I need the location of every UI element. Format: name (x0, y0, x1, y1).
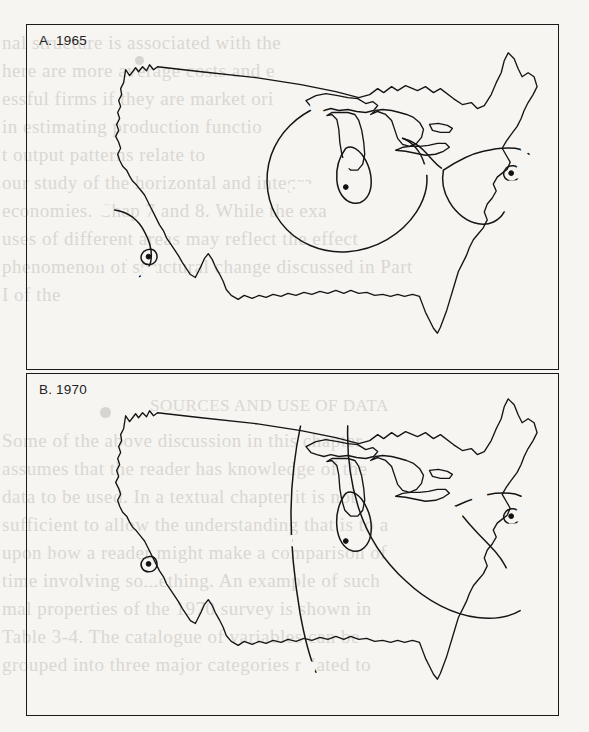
city-dot-chicago (343, 539, 348, 544)
contour-label-25-la: 25 (145, 574, 158, 586)
great-lakes-huron-erie (371, 456, 424, 493)
great-lakes-ontario (429, 123, 452, 132)
city-dot-los-angeles (146, 254, 151, 259)
map-panel-1970: B. 1970 (26, 373, 559, 716)
city-dot-new-york (509, 171, 514, 176)
city-label-los-angeles: Los Angeles (57, 250, 125, 264)
contour-25-chicago (337, 492, 372, 551)
city-label-new-york: New York (517, 509, 558, 523)
great-lakes-huron-erie (371, 110, 424, 147)
city-dot-los-angeles (146, 562, 151, 567)
contour-label-25-ny: 25 (503, 523, 516, 535)
contour-50-new-york-lower (455, 506, 508, 573)
city-dot-chicago (343, 185, 348, 190)
contour-25-chicago (337, 147, 372, 203)
contour-label-25-la: 25 (143, 266, 156, 278)
contour-50-new-york (455, 493, 521, 506)
great-lakes-ontario (429, 469, 452, 478)
map-panel-1965: A. 1965 (26, 24, 559, 370)
contour-50-west-vertical-2 (348, 424, 521, 618)
contour-label-50-west-2: 50 (340, 414, 353, 426)
map-svg-1970: Los Angeles Chicago New York 25 50 50 25… (27, 374, 558, 715)
city-label-los-angeles: Los Angeles (55, 557, 123, 571)
contour-50-ny-lower (443, 170, 505, 224)
contour-label-50-ny-north: 50 (473, 491, 486, 503)
contour-label-50-west-1: 50 (292, 414, 305, 426)
panel-a-label: A. 1965 (39, 33, 87, 48)
contour-label-50-gulf: 50 (302, 661, 315, 673)
contour-label-25-chicago: 25 (342, 157, 355, 169)
contour-label-25-ny: 25 (503, 180, 516, 192)
city-label-chicago: Chicago (289, 181, 335, 195)
city-dot-new-york (509, 514, 514, 519)
contour-label-50-ny-north: 50 (522, 142, 535, 154)
contour-50-chicago (267, 107, 427, 252)
contour-label-50-west: 50 (98, 204, 111, 216)
figure-page: nal structure is associated with thehere… (0, 0, 589, 732)
contour-label-50-chicago-east: 50 (421, 164, 434, 176)
contour-label-50-chicago-north: 50 (311, 101, 324, 113)
figure-container: A. 1965 (26, 24, 559, 716)
city-label-new-york: New York (517, 166, 558, 180)
contour-label-50-ny-south: 50 (501, 568, 514, 580)
panel-b-label: B. 1970 (39, 382, 87, 397)
city-label-chicago: Chicago (289, 534, 335, 548)
map-svg-1965: Los Angeles Chicago New York 50 50 25 50… (27, 25, 558, 369)
great-lakes-superior (306, 440, 378, 459)
contour-label-50-ny-west: 50 (449, 506, 462, 518)
contour-label-25-chicago: 25 (374, 501, 387, 513)
